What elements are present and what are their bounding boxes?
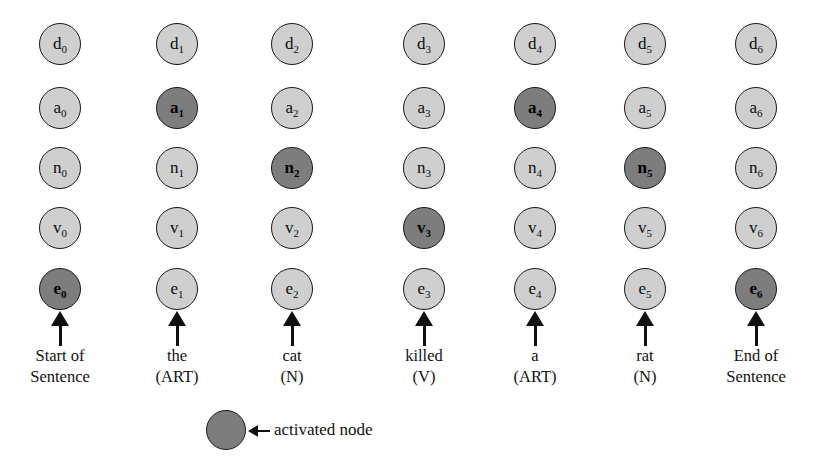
node-d6[interactable]: d6 <box>735 23 777 65</box>
node-label: n5 <box>638 159 653 176</box>
arrow-stem <box>534 324 537 346</box>
node-label: e3 <box>417 280 430 297</box>
node-n3[interactable]: n3 <box>403 147 445 189</box>
node-label-subscript: 4 <box>537 43 543 55</box>
node-label-subscript: 0 <box>62 43 68 55</box>
node-label: d0 <box>53 35 67 52</box>
node-label: d1 <box>170 35 184 52</box>
node-label: a5 <box>638 99 651 116</box>
node-label-subscript: 5 <box>646 107 652 119</box>
node-a0[interactable]: a0 <box>39 87 81 129</box>
legend-arrow-head <box>248 425 258 437</box>
arrow-stem <box>59 324 62 346</box>
node-n2[interactable]: n2 <box>271 147 313 189</box>
node-d2[interactable]: d2 <box>271 23 313 65</box>
node-label-subscript: 3 <box>425 288 431 300</box>
node-n5[interactable]: n5 <box>624 147 666 189</box>
legend-arrow-left-icon <box>248 424 270 438</box>
node-label: e2 <box>285 280 298 297</box>
node-v3[interactable]: v3 <box>403 207 445 249</box>
node-v1[interactable]: v1 <box>156 207 198 249</box>
arrow-head <box>168 311 186 326</box>
node-e1[interactable]: e1 <box>156 268 198 310</box>
node-label: a3 <box>417 99 430 116</box>
node-a5[interactable]: a5 <box>624 87 666 129</box>
node-label-subscript: 5 <box>647 43 653 55</box>
node-label-subscript: 4 <box>536 288 542 300</box>
arrow-head <box>283 311 301 326</box>
node-d1[interactable]: d1 <box>156 23 198 65</box>
node-label-subscript: 2 <box>293 107 299 119</box>
node-label: a0 <box>53 99 66 116</box>
node-label: n1 <box>170 159 184 176</box>
word-text: cat <box>282 346 301 365</box>
node-d5[interactable]: d5 <box>624 23 666 65</box>
node-label-subscript: 5 <box>647 167 653 179</box>
node-e4[interactable]: e4 <box>514 268 556 310</box>
node-label-subscript: 4 <box>537 227 543 239</box>
node-label-subscript: 1 <box>179 227 185 239</box>
node-label: v0 <box>53 219 67 236</box>
node-label-subscript: 0 <box>62 167 68 179</box>
node-label: a1 <box>170 99 184 116</box>
word-text: a <box>531 346 538 365</box>
node-label-subscript: 1 <box>179 43 185 55</box>
node-a1[interactable]: a1 <box>156 87 198 129</box>
node-label: e4 <box>528 280 541 297</box>
node-d4[interactable]: d4 <box>514 23 556 65</box>
node-label-subscript: 3 <box>426 227 432 239</box>
node-label-subscript: 1 <box>179 167 185 179</box>
node-label-subscript: 2 <box>293 288 299 300</box>
node-label-subscript: 3 <box>426 167 432 179</box>
node-a3[interactable]: a3 <box>403 87 445 129</box>
node-label-subscript: 0 <box>61 107 67 119</box>
node-label: d4 <box>528 35 542 52</box>
node-a4[interactable]: a4 <box>514 87 556 129</box>
word-text: rat <box>636 346 653 365</box>
node-n4[interactable]: n4 <box>514 147 556 189</box>
node-d3[interactable]: d3 <box>403 23 445 65</box>
node-e6[interactable]: e6 <box>735 268 777 310</box>
node-label: v1 <box>170 219 184 236</box>
node-label: n4 <box>528 159 542 176</box>
node-n0[interactable]: n0 <box>39 147 81 189</box>
node-label: v3 <box>417 219 431 236</box>
node-label-subscript: 6 <box>758 227 764 239</box>
node-e3[interactable]: e3 <box>403 268 445 310</box>
word-tag: Sentence <box>676 366 813 387</box>
node-label: a6 <box>749 99 762 116</box>
node-a6[interactable]: a6 <box>735 87 777 129</box>
arrow-head <box>636 311 654 326</box>
node-label-subscript: 2 <box>294 43 300 55</box>
node-label-subscript: 6 <box>757 107 763 119</box>
node-v5[interactable]: v5 <box>624 207 666 249</box>
node-n1[interactable]: n1 <box>156 147 198 189</box>
node-label: n6 <box>749 159 763 176</box>
node-v6[interactable]: v6 <box>735 207 777 249</box>
node-label: d6 <box>749 35 763 52</box>
arrow-head <box>51 311 69 326</box>
node-e0[interactable]: e0 <box>39 268 81 310</box>
node-e5[interactable]: e5 <box>624 268 666 310</box>
node-v0[interactable]: v0 <box>39 207 81 249</box>
arrow-stem <box>291 324 294 346</box>
node-v4[interactable]: v4 <box>514 207 556 249</box>
node-label-subscript: 5 <box>647 227 653 239</box>
arrow-stem <box>176 324 179 346</box>
network-activation-diagram: d0a0n0v0e0Start ofSentenced1a1n1v1e1the(… <box>0 0 813 470</box>
arrow-head <box>526 311 544 326</box>
node-d0[interactable]: d0 <box>39 23 81 65</box>
node-label: e5 <box>638 280 651 297</box>
node-label: e6 <box>749 280 762 297</box>
node-label-subscript: 3 <box>425 107 431 119</box>
node-n6[interactable]: n6 <box>735 147 777 189</box>
word-text: the <box>167 346 187 365</box>
node-e2[interactable]: e2 <box>271 268 313 310</box>
node-label: d2 <box>285 35 299 52</box>
node-label: e1 <box>170 280 183 297</box>
node-v2[interactable]: v2 <box>271 207 313 249</box>
node-label-subscript: 2 <box>294 167 300 179</box>
node-a2[interactable]: a2 <box>271 87 313 129</box>
node-label: d3 <box>417 35 431 52</box>
node-label-subscript: 6 <box>758 43 764 55</box>
